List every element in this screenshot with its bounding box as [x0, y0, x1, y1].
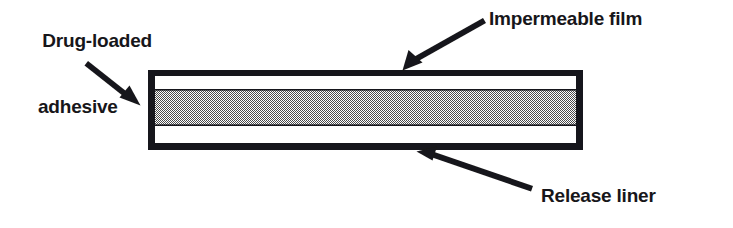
- patch-body: [148, 70, 583, 150]
- lower-void-band: [155, 126, 576, 143]
- label-release-liner: Release liner: [541, 185, 656, 207]
- arrow-to-release-liner-icon: [417, 147, 534, 192]
- label-drug-loaded-adhesive-line1: Drug-loaded: [42, 30, 152, 51]
- label-drug-loaded-adhesive: Drug-loaded adhesive: [22, 8, 152, 162]
- adhesive-top-rule: [155, 89, 576, 91]
- upper-void-band: [155, 76, 576, 89]
- label-drug-loaded-adhesive-line2: adhesive: [22, 96, 152, 118]
- drug-loaded-adhesive-band: [155, 89, 576, 126]
- patch-cross-section-figure: Drug-loaded adhesive Impermeable film Re…: [0, 0, 733, 228]
- label-impermeable-film: Impermeable film: [489, 8, 642, 30]
- adhesive-bottom-rule: [155, 124, 576, 126]
- arrow-to-impermeable-film-icon: [403, 18, 487, 71]
